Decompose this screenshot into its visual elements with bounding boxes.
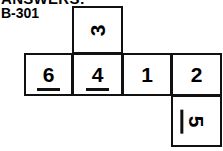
net-cell-5-content: 5 <box>173 97 220 145</box>
net-cell-4: 4 <box>72 53 123 96</box>
net-cell-3-digit: 3 <box>87 24 108 36</box>
net-cell-6-digit: 6 <box>43 64 55 85</box>
net-cell-4-digit: 4 <box>92 64 104 85</box>
net-cell-2-digit: 2 <box>191 64 203 85</box>
net-cell-4-content: 4 <box>74 55 121 94</box>
net-cell-5: 5 <box>171 95 222 147</box>
net-cell-1: 1 <box>122 53 172 96</box>
net-cell-3-content: 3 <box>74 8 121 52</box>
net-cell-5-digit: 5 <box>186 115 207 127</box>
net-cell-2: 2 <box>171 53 222 96</box>
cube-net-figure: ANSWERS: B-301 3 6 4 1 2 5 <box>0 0 223 151</box>
net-cell-3: 3 <box>72 6 123 54</box>
net-cell-2-content: 2 <box>173 55 220 94</box>
net-cell-6: 6 <box>24 53 73 96</box>
problem-code-label: B-301 <box>1 6 39 21</box>
net-cell-1-content: 1 <box>124 55 170 94</box>
net-cell-1-digit: 1 <box>141 64 153 85</box>
net-cell-6-content: 6 <box>26 55 71 94</box>
